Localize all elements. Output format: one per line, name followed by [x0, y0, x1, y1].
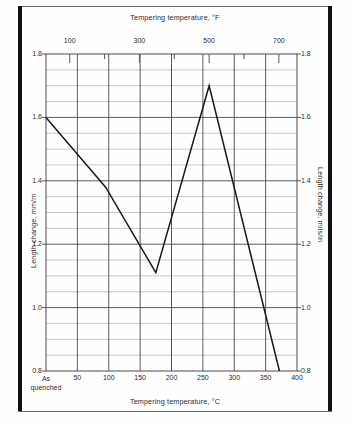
tick-marks-left-axis	[42, 54, 46, 371]
y-tick-label: 1.2	[14, 240, 42, 247]
y-tick-label: 1.4	[14, 177, 42, 184]
x2-tick-label: 700	[259, 37, 299, 44]
figure-page: Tempering temperature, °F Tempering temp…	[0, 0, 350, 424]
y2-tick-label: 1.6	[301, 113, 329, 120]
y2-tick-label: 1.2	[301, 240, 329, 247]
y2-tick-label: 1.0	[301, 304, 329, 311]
tick-marks-top-axis	[70, 54, 279, 63]
x2-tick-label: 100	[50, 37, 90, 44]
y2-tick-label: 1.4	[301, 177, 329, 184]
left-axis-title: Length change, mm/m	[29, 194, 38, 268]
x2-tick-label: 500	[189, 37, 229, 44]
y-tick-label: 0.8	[14, 367, 42, 374]
y-tick-label: 1.6	[14, 113, 42, 120]
page-rule-top	[18, 6, 332, 7]
y2-tick-label: 0.8	[301, 367, 329, 374]
x2-tick-label: 300	[119, 37, 159, 44]
y2-tick-label: 1.8	[301, 50, 329, 57]
x-tick-label: 400	[277, 374, 317, 381]
tick-marks-right-axis	[297, 54, 301, 371]
plot-area	[46, 54, 297, 371]
page-edge-left	[18, 6, 22, 412]
bottom-axis-title: Tempering temperature, °C	[0, 397, 350, 406]
page-edge-right	[328, 6, 332, 412]
y-tick-label: 1.8	[14, 50, 42, 57]
top-axis-title: Tempering temperature, °F	[0, 13, 350, 22]
chart-canvas	[46, 54, 297, 371]
page-rule-bottom	[18, 411, 332, 412]
y-tick-label: 1.0	[14, 304, 42, 311]
